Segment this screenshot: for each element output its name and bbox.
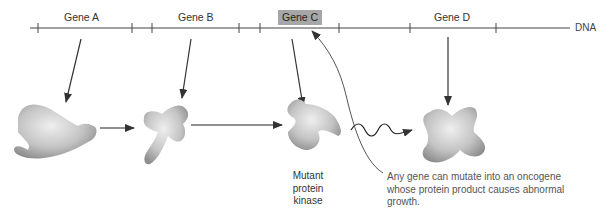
mutant-protein-kinase-caption: Mutant protein kinase: [288, 170, 328, 208]
gene-to-protein-arrows: [66, 37, 448, 106]
caption-line: Mutant: [288, 170, 328, 183]
annotation-arrow: [312, 31, 383, 173]
gene-d-label: Gene D: [434, 11, 470, 23]
protein-b: [144, 105, 188, 164]
protein-a: [14, 105, 97, 159]
gene-a-label: Gene A: [64, 11, 99, 23]
gene-c-label-highlighted: Gene C: [278, 10, 322, 25]
caption-line: kinase: [288, 195, 328, 208]
gene-b-label: Gene B: [178, 11, 214, 23]
dna-label: DNA: [575, 22, 596, 33]
oncogene-diagram: Gene A Gene B Gene C Gene D DNA Mutant p…: [0, 0, 612, 215]
protein-c-mutant-kinase: [287, 100, 341, 151]
protein-d-abnormal: [423, 107, 485, 162]
note-line: whose protein product causes abnormal: [387, 184, 564, 197]
note-line: growth.: [387, 196, 564, 209]
caption-line: protein: [288, 183, 328, 196]
oncogene-note: Any gene can mutate into an oncogene who…: [387, 171, 564, 209]
note-line: Any gene can mutate into an oncogene: [387, 171, 564, 184]
